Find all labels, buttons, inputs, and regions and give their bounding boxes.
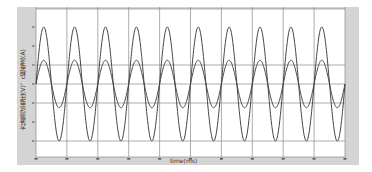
y-tick-mark [32, 26, 35, 27]
y-tick-mark [32, 140, 35, 141]
y-tick-mark [32, 45, 35, 46]
x-tick-mark [35, 158, 38, 160]
x-tick-mark [65, 158, 68, 160]
x-tick-mark [158, 158, 161, 160]
y-axis-label: 方波测试电压(V)、c相电流(A) [18, 40, 30, 140]
x-axis-label: time(ms) [170, 157, 197, 164]
y-tick-mark [32, 83, 35, 84]
x-tick-mark [251, 158, 254, 160]
y-tick-mark [32, 102, 35, 103]
x-tick-mark [282, 158, 285, 160]
y-tick-mark [32, 121, 35, 122]
x-tick-mark [344, 158, 347, 160]
x-tick-mark [220, 158, 223, 160]
x-tick-mark [96, 158, 99, 160]
x-tick-mark [127, 158, 130, 160]
y-tick-mark [32, 64, 35, 65]
line-chart [0, 0, 372, 172]
x-tick-mark [313, 158, 316, 160]
